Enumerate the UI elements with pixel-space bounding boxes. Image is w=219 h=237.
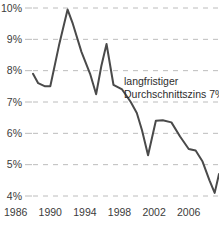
series-line-0 [33,10,219,193]
y-axis-label-5pct: 5% [7,158,22,170]
x-axis-tick-labels: 198619901994199820022006 [4,206,201,218]
series-lines [33,10,219,193]
chart-annotations: langfristigerDurchschnittszins 7% [124,75,219,100]
y-axis-label-9pct: 9% [7,33,22,45]
y-axis-label-7pct: 7% [7,96,22,108]
chart-canvas: 10%9%8%7%6%5%4% 198619901994199820022006… [0,0,219,237]
x-axis-label-1990: 1990 [39,206,63,218]
long-term-average-note-line1: langfristiger [124,75,179,87]
y-axis-label-8pct: 8% [7,64,22,76]
y-axis-label-10pct: 10% [1,2,22,14]
y-axis-label-4pct: 4% [7,190,22,202]
x-axis-label-1998: 1998 [108,206,132,218]
x-axis-label-2002: 2002 [142,206,166,218]
x-axis-label-1986: 1986 [4,206,28,218]
x-axis-label-1994: 1994 [73,206,97,218]
x-axis-label-2006: 2006 [177,206,201,218]
y-axis-tick-marks [25,8,32,196]
interest-rate-chart: 10%9%8%7%6%5%4% 198619901994199820022006… [0,0,219,237]
long-term-average-note-line2: Durchschnittszins 7% [124,88,219,100]
y-axis-label-6pct: 6% [7,127,22,139]
y-axis-tick-labels: 10%9%8%7%6%5%4% [1,2,22,202]
